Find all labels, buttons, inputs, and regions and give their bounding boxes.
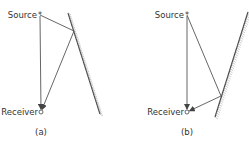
source-label: Source [8,10,37,20]
panel-a: * Source Receiver (a) [1,10,103,137]
source-label: Source [155,10,184,20]
reflected-path-a [42,31,74,109]
reflection-diagram: * Source Receiver (a) * Source Receiver … [0,0,249,145]
direct-path-a [40,16,41,109]
wall-a [68,13,103,116]
panel-b: * Source Receiver (b) [147,10,249,137]
wall-b [215,12,249,119]
source-star-icon: * [185,11,189,20]
receiver-label: Receiver [1,107,38,117]
reflected-path-b [190,96,221,111]
incident-path-b [187,15,221,96]
panel-caption: (a) [35,127,47,137]
receiver-circle-icon [39,110,43,114]
panel-caption: (b) [181,127,193,137]
source-star-icon: * [38,11,42,20]
receiver-label: Receiver [147,107,184,117]
receiver-circle-icon [185,110,189,114]
